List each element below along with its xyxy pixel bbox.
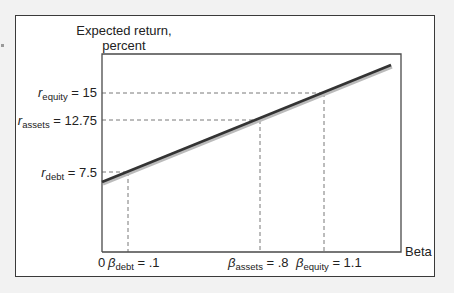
beta-assets-label: βassets = .8 — [227, 255, 289, 272]
line-shadow — [103, 67, 392, 184]
beta-debt-label: βdebt = .1 — [107, 255, 160, 272]
chart: Expected return, percent requity = 15 ra… — [0, 0, 454, 293]
beta-equity-label: βequity = 1.1 — [295, 255, 362, 272]
r-debt-label: rdebt = 7.5 — [41, 165, 97, 182]
y-axis-title-line1: Expected return, — [76, 23, 171, 38]
y-axis-title-line2: percent — [102, 38, 146, 53]
r-equity-label: requity = 15 — [38, 85, 97, 102]
x-axis-title: Beta — [405, 244, 433, 259]
origin-label: 0 — [98, 255, 105, 270]
r-assets-label: rassets = 12.75 — [18, 113, 97, 130]
plot-area-border — [102, 54, 401, 252]
security-market-line — [102, 65, 391, 182]
